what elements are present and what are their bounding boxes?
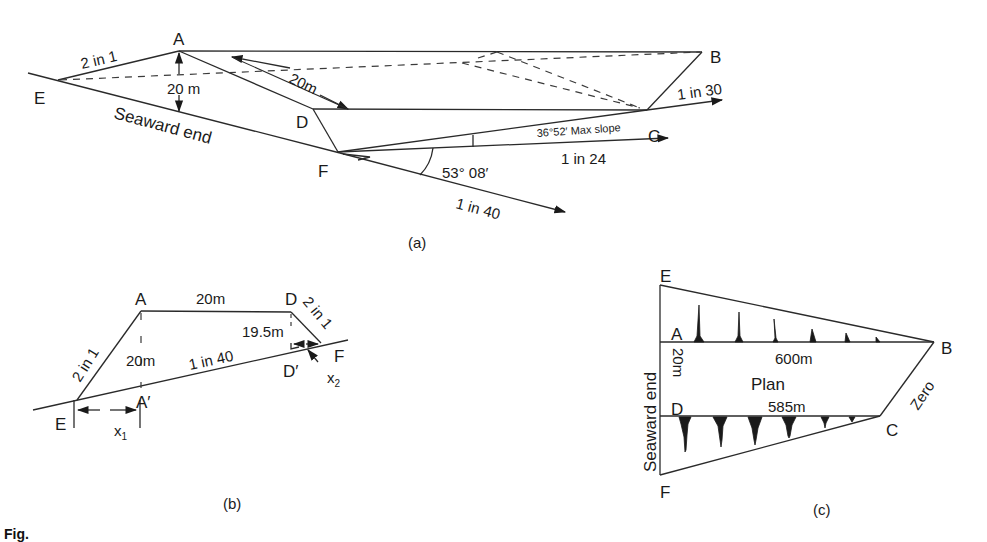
point-c-label: C <box>648 127 660 146</box>
point-e-label: E <box>660 267 671 286</box>
seaward-end-label: Seaward end <box>641 372 660 472</box>
top-width-label: 20m <box>287 69 321 97</box>
edge-df <box>313 109 338 152</box>
width-arrow-left <box>232 57 290 68</box>
ground-slope-arrow <box>340 153 565 212</box>
top-edge-ad <box>141 311 291 312</box>
point-a-label: A <box>135 290 147 309</box>
figure-a-caption: (a) <box>408 234 426 251</box>
figure-b-caption: (b) <box>223 495 241 512</box>
slope-1in24-label: 1 in 24 <box>561 150 606 167</box>
figure-c-plan-view: E A B C D F 600m Plan 585m 20m Seaward e… <box>641 267 952 518</box>
point-b-label: B <box>941 339 952 358</box>
ground-slope-label: 1 in 40 <box>187 347 235 373</box>
length-dc-label: 585m <box>768 398 806 415</box>
figure-b-cross-section: A D E F A′ D′ 20m 2 in 1 2 in 1 20m 1 in… <box>33 290 348 512</box>
seaward-end-label: Seaward end <box>112 104 214 148</box>
point-f-label: F <box>318 162 328 181</box>
point-e-label: E <box>55 415 66 434</box>
width-label: 20m <box>670 348 687 377</box>
zero-label: Zero <box>906 378 937 413</box>
point-d-label: D <box>671 400 683 419</box>
left-slope-label: 2 in 1 <box>68 344 102 384</box>
ground-slope-label: 1 in 40 <box>454 194 502 222</box>
point-a-label: A <box>671 325 683 344</box>
x2-pointer-arrow <box>308 350 318 362</box>
edge-bc <box>647 52 702 110</box>
figure-c-caption: (c) <box>813 501 831 518</box>
point-a-prime-label: A′ <box>136 393 151 412</box>
side-slope-label: 2 in 1 <box>79 47 119 72</box>
point-d-label: D <box>296 113 308 132</box>
point-c-label: C <box>886 421 898 440</box>
point-e-label: E <box>34 89 45 108</box>
slope-1in30-label: 1 in 30 <box>676 80 723 103</box>
figure-a-isometric-view: A B C D E F 2 in 1 20 m 20m Seaward end … <box>28 30 723 251</box>
x1-label: x1 <box>114 422 128 442</box>
d-height-label: 19.5m <box>242 323 284 340</box>
height-label: 20 m <box>167 80 200 97</box>
top-edge-ab <box>179 51 702 52</box>
length-ab-label: 600m <box>775 350 813 367</box>
x2-label: x2 <box>327 369 341 389</box>
height-label: 20m <box>126 352 155 369</box>
edge-bc <box>880 342 934 416</box>
edge-eb <box>660 285 934 342</box>
point-d-prime-label: D′ <box>283 362 298 381</box>
figure-caption: Fig. <box>4 526 29 542</box>
point-a-label: A <box>173 30 185 49</box>
top-edge-dc <box>313 109 647 110</box>
angle-arc <box>420 148 433 175</box>
point-b-label: B <box>710 48 721 67</box>
slope-ea <box>58 51 179 80</box>
slope-hachures-top <box>694 305 880 342</box>
point-f-label: F <box>660 483 670 502</box>
dashed-line-2 <box>462 63 640 108</box>
top-width-label: 20m <box>196 290 225 307</box>
plan-title: Plan <box>751 375 785 394</box>
point-f-label: F <box>334 347 344 366</box>
point-d-label: D <box>285 290 297 309</box>
edge-fc <box>660 416 880 475</box>
angle-label: 53° 08′ <box>442 164 489 181</box>
